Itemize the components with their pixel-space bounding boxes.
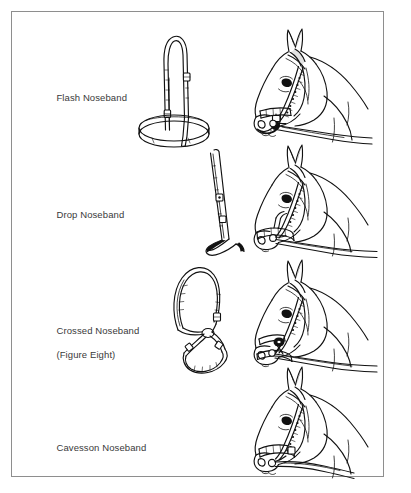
horse-head-drop bbox=[252, 140, 392, 258]
label-flash-line1: Flash Noseband bbox=[56, 92, 127, 103]
row-drop: Drop Noseband bbox=[0, 140, 373, 258]
label-drop-line1: Drop Noseband bbox=[56, 209, 124, 220]
horse-head-crossed bbox=[252, 255, 392, 375]
horse-head-flash bbox=[252, 22, 392, 158]
crossed-noseband-tack bbox=[158, 258, 250, 378]
drop-noseband-tack bbox=[196, 144, 256, 260]
label-cavesson: Cavesson Noseband bbox=[40, 430, 146, 466]
row-cavesson: Cavesson Noseband bbox=[0, 362, 373, 480]
horse-head-cavesson bbox=[252, 362, 392, 480]
flash-noseband-tack bbox=[128, 18, 220, 150]
label-crossed-line2: (Figure Eight) bbox=[56, 349, 115, 360]
row-crossed: Crossed Noseband (Figure Eight) bbox=[0, 255, 373, 377]
label-cavesson-line1: Cavesson Noseband bbox=[56, 442, 146, 453]
row-flash: Flash Noseband bbox=[0, 18, 373, 148]
figure-page: Flash Noseband bbox=[0, 0, 411, 493]
label-drop: Drop Noseband bbox=[40, 197, 124, 233]
label-crossed-line1: Crossed Noseband bbox=[56, 325, 139, 336]
label-flash: Flash Noseband bbox=[40, 80, 127, 116]
